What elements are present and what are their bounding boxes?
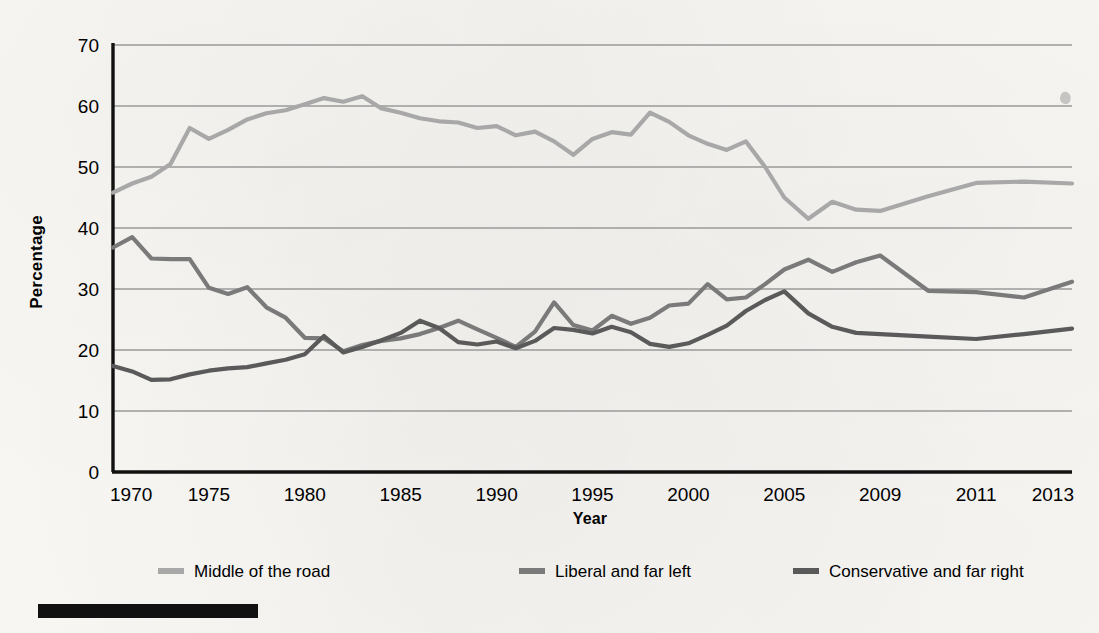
y-tick-label: 20 [78,340,99,361]
y-tick-label: 0 [88,462,99,483]
y-tick-label: 40 [78,218,99,239]
data-series-group [113,96,1072,380]
y-tick-label: 30 [78,279,99,300]
series-line [113,96,1072,219]
bottom-rule-bar [38,604,258,618]
y-tick-label: 50 [78,157,99,178]
x-tick-label: 2005 [763,484,805,505]
x-tick-label: 1975 [188,484,230,505]
legend-label: Middle of the road [194,562,330,581]
y-tick-labels-group: 010203040506070 [78,35,99,483]
x-tick-label: 1985 [380,484,422,505]
x-tick-label: 1970 [110,484,152,505]
y-tick-label: 70 [78,35,99,56]
chart-legend: Middle of the roadLiberal and far leftCo… [158,562,1024,581]
legend-label: Liberal and far left [555,562,691,581]
y-tick-label: 10 [78,401,99,422]
legend-item: Middle of the road [158,562,330,581]
x-tick-label: 1990 [475,484,517,505]
axes-group [112,43,1072,472]
x-tick-label: 2013 [1032,484,1074,505]
legend-item: Liberal and far left [519,562,691,581]
legend-item: Conservative and far right [793,562,1024,581]
x-tick-label: 2011 [956,484,997,505]
x-tick-label: 2000 [667,484,709,505]
legend-label: Conservative and far right [829,562,1024,581]
y-axis-label: Percentage [27,215,46,309]
x-axis-label: Year [573,510,608,527]
x-tick-label: 2009 [859,484,901,505]
gridlines-group [113,45,1072,411]
x-tick-label: 1995 [571,484,613,505]
y-tick-label: 60 [78,96,99,117]
x-tick-labels-group: 1970197519801985199019952000200520092011… [110,484,1074,505]
x-tick-label: 1980 [284,484,326,505]
chart-plot-area: 010203040506070 197019751980198519901995… [0,0,1099,633]
series-line [113,291,1072,380]
line-chart-figure: 010203040506070 197019751980198519901995… [0,0,1099,633]
